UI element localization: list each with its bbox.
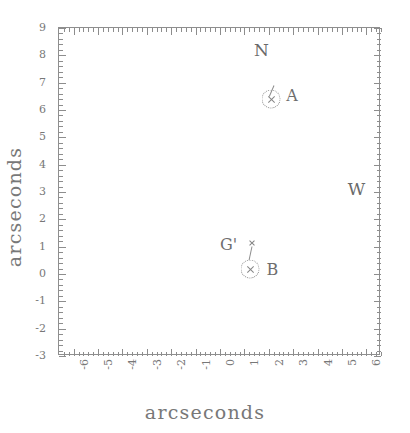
- x-minor-tick-bottom: [103, 352, 104, 356]
- x-minor-tick-top: [132, 28, 133, 32]
- x-minor-tick-top: [288, 28, 289, 32]
- y-minor-tick-left: [59, 279, 63, 280]
- x-major-tick-top: [366, 28, 367, 35]
- x-minor-tick-top: [79, 28, 80, 32]
- y-minor-tick-right: [377, 33, 381, 34]
- y-minor-tick-left: [59, 236, 63, 237]
- y-minor-tick-right: [377, 296, 381, 297]
- x-minor-tick-bottom: [337, 352, 338, 356]
- x-minor-tick-bottom: [347, 352, 348, 356]
- y-minor-tick-left: [59, 285, 63, 286]
- y-major-tick-left: [59, 329, 66, 330]
- y-tick-label: 1: [39, 239, 46, 252]
- y-minor-tick-left: [59, 269, 63, 270]
- y-tick-label: 0: [39, 267, 46, 280]
- y-major-tick-left: [59, 165, 66, 166]
- x-minor-tick-top: [142, 28, 143, 32]
- x-minor-tick-bottom: [357, 352, 358, 356]
- x-major-tick-top: [220, 28, 221, 35]
- x-minor-tick-top: [322, 28, 323, 32]
- y-minor-tick-left: [59, 263, 63, 264]
- x-minor-tick-bottom: [137, 352, 138, 356]
- plot-frame: ABG'NW: [58, 27, 380, 355]
- y-major-tick-left: [59, 55, 66, 56]
- y-minor-tick-right: [377, 285, 381, 286]
- y-minor-tick-right: [377, 154, 381, 155]
- x-major-tick-bottom: [366, 349, 367, 356]
- x-minor-tick-top: [186, 28, 187, 32]
- x-minor-tick-bottom: [225, 352, 226, 356]
- x-minor-tick-bottom: [118, 352, 119, 356]
- y-tick-label: 8: [39, 48, 46, 61]
- x-minor-tick-top: [118, 28, 119, 32]
- y-major-tick-left: [59, 247, 66, 248]
- y-minor-tick-right: [377, 187, 381, 188]
- x-minor-tick-top: [259, 28, 260, 32]
- y-major-tick-left: [59, 28, 66, 29]
- y-minor-tick-left: [59, 208, 63, 209]
- y-minor-tick-left: [59, 105, 63, 106]
- y-minor-tick-left: [59, 99, 63, 100]
- y-major-tick-right: [374, 274, 381, 275]
- x-minor-tick-bottom: [93, 352, 94, 356]
- x-minor-tick-bottom: [176, 352, 177, 356]
- x-minor-tick-bottom: [313, 352, 314, 356]
- y-minor-tick-right: [377, 269, 381, 270]
- x-major-tick-bottom: [269, 349, 270, 356]
- x-minor-tick-bottom: [235, 352, 236, 356]
- x-minor-tick-top: [161, 28, 162, 32]
- x-minor-tick-top: [83, 28, 84, 32]
- x-major-tick-bottom: [147, 349, 148, 356]
- data-point-g: [248, 239, 255, 246]
- y-tick-label: -2: [35, 321, 46, 334]
- x-tick-label: -1: [200, 359, 213, 370]
- y-minor-tick-left: [59, 241, 63, 242]
- x-tick-label: 5: [346, 359, 359, 366]
- y-minor-tick-left: [59, 44, 63, 45]
- y-minor-tick-right: [377, 208, 381, 209]
- y-major-tick-right: [374, 329, 381, 330]
- y-minor-tick-right: [377, 77, 381, 78]
- y-minor-tick-left: [59, 312, 63, 313]
- x-tick-label: 4: [322, 359, 335, 366]
- x-minor-tick-top: [254, 28, 255, 32]
- x-minor-tick-bottom: [83, 352, 84, 356]
- x-minor-tick-bottom: [274, 352, 275, 356]
- y-minor-tick-left: [59, 170, 63, 171]
- y-tick-label: 5: [39, 130, 46, 143]
- compass-label-n: N: [254, 40, 269, 60]
- x-major-tick-bottom: [220, 349, 221, 356]
- y-minor-tick-left: [59, 351, 63, 352]
- x-minor-tick-bottom: [381, 352, 382, 356]
- x-minor-tick-top: [230, 28, 231, 32]
- x-minor-tick-top: [137, 28, 138, 32]
- x-minor-tick-bottom: [230, 352, 231, 356]
- y-minor-tick-left: [59, 334, 63, 335]
- y-minor-tick-right: [377, 72, 381, 73]
- x-minor-tick-bottom: [79, 352, 80, 356]
- x-minor-tick-top: [240, 28, 241, 32]
- x-minor-tick-bottom: [308, 352, 309, 356]
- y-minor-tick-right: [377, 159, 381, 160]
- x-minor-tick-top: [264, 28, 265, 32]
- y-minor-tick-right: [377, 126, 381, 127]
- y-minor-tick-left: [59, 143, 63, 144]
- x-minor-tick-bottom: [166, 352, 167, 356]
- x-minor-tick-bottom: [152, 352, 153, 356]
- y-minor-tick-left: [59, 230, 63, 231]
- x-minor-tick-bottom: [298, 352, 299, 356]
- y-major-tick-right: [374, 83, 381, 84]
- x-minor-tick-top: [225, 28, 226, 32]
- x-minor-tick-top: [157, 28, 158, 32]
- x-major-tick-bottom: [196, 349, 197, 356]
- y-minor-tick-right: [377, 132, 381, 133]
- y-major-tick-left: [59, 110, 66, 111]
- x-minor-tick-top: [298, 28, 299, 32]
- y-minor-tick-left: [59, 115, 63, 116]
- x-tick-label: -2: [175, 359, 188, 370]
- x-minor-tick-bottom: [254, 352, 255, 356]
- x-minor-tick-top: [88, 28, 89, 32]
- x-minor-tick-top: [210, 28, 211, 32]
- y-minor-tick-right: [377, 44, 381, 45]
- y-minor-tick-left: [59, 176, 63, 177]
